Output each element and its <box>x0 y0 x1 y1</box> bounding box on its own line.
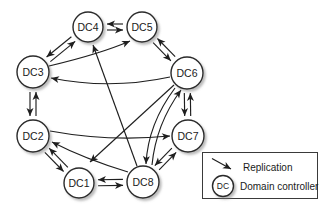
replication-link-dc6-dc3 <box>51 77 170 84</box>
replication-link-dc6-dc8 <box>146 88 175 164</box>
replication-link-dc2-dc1 <box>45 152 64 171</box>
node-dc8: DC8 <box>127 166 159 198</box>
legend-dc-label: Domain controller <box>240 181 319 192</box>
domain-controller-nodes: DC1DC2DC3DC4DC5DC6DC7DC8 <box>17 12 204 198</box>
replication-link-dc1-dc2 <box>49 148 68 167</box>
node-label-dc1: DC1 <box>68 177 89 189</box>
legend-dc-symbol: DC <box>217 181 229 191</box>
replication-link-dc6-dc1 <box>90 85 174 162</box>
diagram-canvas: DC1DC2DC3DC4DC5DC6DC7DC8 Replication DC … <box>0 0 327 211</box>
replication-edges <box>30 24 191 186</box>
node-dc2: DC2 <box>17 120 49 152</box>
node-label-dc4: DC4 <box>77 21 98 33</box>
node-dc7: DC7 <box>172 120 204 152</box>
node-dc4: DC4 <box>73 12 103 42</box>
node-dc5: DC5 <box>127 12 157 42</box>
node-label-dc2: DC2 <box>22 130 43 142</box>
replication-link-dc8-dc2 <box>52 142 128 172</box>
replication-link-dc8-dc4 <box>93 45 137 166</box>
replication-link-dc5-dc6 <box>153 43 171 61</box>
legend-replication-label: Replication <box>243 162 292 173</box>
replication-link-dc8-dc7 <box>159 152 176 169</box>
node-label-dc3: DC3 <box>22 66 43 78</box>
replication-link-dc6-dc5 <box>157 38 175 56</box>
node-dc1: DC1 <box>64 168 94 198</box>
node-dc3: DC3 <box>17 56 49 88</box>
replication-link-dc7-dc8 <box>155 148 172 165</box>
node-label-dc5: DC5 <box>131 21 152 33</box>
node-label-dc7: DC7 <box>177 130 198 142</box>
node-dc6: DC6 <box>171 57 203 89</box>
node-label-dc6: DC6 <box>176 67 197 79</box>
node-label-dc8: DC8 <box>132 176 153 188</box>
replication-topology-svg: DC1DC2DC3DC4DC5DC6DC7DC8 Replication DC … <box>0 0 327 211</box>
legend: Replication DC Domain controller <box>203 153 320 199</box>
